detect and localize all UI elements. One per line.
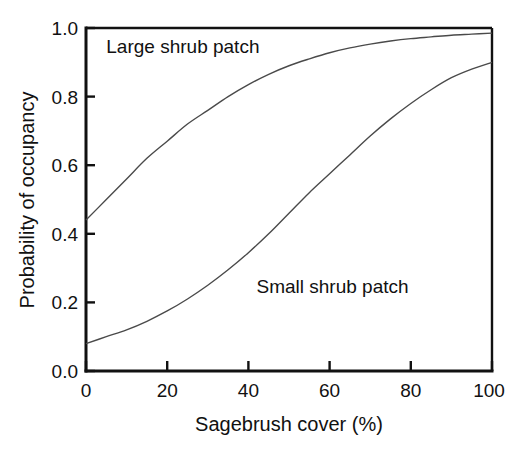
curve-large-shrub-patch [86, 33, 492, 220]
curve-small-shrub-patch [86, 62, 492, 343]
x-axis-title: Sagebrush cover (%) [195, 413, 383, 435]
y-tick-label-4: 0.8 [52, 87, 78, 108]
occupancy-probability-chart: 0.0 0.2 0.4 0.6 0.8 1.0 0 20 40 60 80 10… [0, 0, 521, 449]
x-tick-label-3: 60 [319, 380, 340, 401]
x-tick-label-2: 40 [238, 380, 259, 401]
x-axis-tick-labels: 0 20 40 60 80 100 [81, 380, 505, 401]
y-axis-tick-labels: 0.0 0.2 0.4 0.6 0.8 1.0 [52, 18, 79, 382]
x-tick-label-5: 100 [473, 380, 505, 401]
x-tick-label-1: 20 [157, 380, 178, 401]
x-tick-label-4: 80 [400, 380, 421, 401]
y-tick-label-0: 0.0 [52, 361, 78, 382]
y-tick-label-5: 1.0 [52, 18, 78, 39]
series-label-large-shrub-patch: Large shrub patch [106, 36, 259, 57]
figure-container: 0.0 0.2 0.4 0.6 0.8 1.0 0 20 40 60 80 10… [0, 0, 521, 449]
y-axis-title: Probability of occupancy [16, 92, 38, 309]
y-tick-label-2: 0.4 [52, 224, 79, 245]
y-tick-label-3: 0.6 [52, 155, 78, 176]
series-label-small-shrub-patch: Small shrub patch [257, 276, 409, 297]
x-tick-label-0: 0 [81, 380, 92, 401]
y-tick-label-1: 0.2 [52, 292, 78, 313]
plot-frame [86, 28, 492, 371]
